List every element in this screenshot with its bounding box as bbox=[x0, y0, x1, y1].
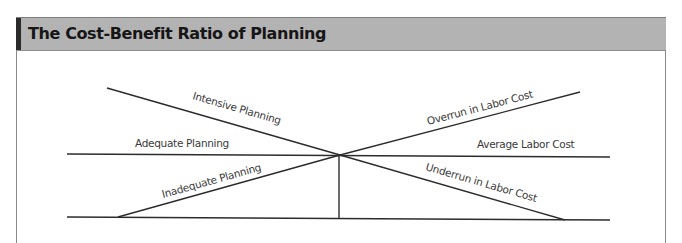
label-overrun-labor-cost: Overrun in Labor Cost bbox=[425, 88, 534, 127]
label-intensive-planning: Intensive Planning bbox=[191, 89, 282, 126]
cost-benefit-diagram: Intensive Planning Adequate Planning Ina… bbox=[0, 0, 682, 243]
label-adequate-planning: Adequate Planning bbox=[135, 137, 229, 149]
label-average-labor-cost: Average Labor Cost bbox=[477, 138, 575, 150]
inadequate-planning-line bbox=[118, 155, 340, 217]
label-underrun-labor-cost: Underrun in Labor Cost bbox=[424, 160, 538, 204]
underrun-labor-cost-line bbox=[340, 155, 565, 220]
